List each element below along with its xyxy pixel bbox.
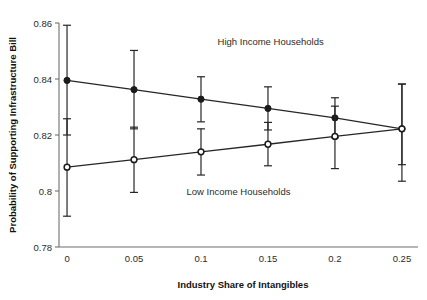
y-tick-label: 0.86: [34, 18, 53, 29]
y-tick-label: 0.78: [34, 242, 53, 253]
x-axis-ticks: 00.050.10.150.20.25: [64, 253, 411, 264]
series-line: [67, 80, 402, 128]
y-tick-label: 0.8: [39, 186, 52, 197]
data-point: [198, 96, 204, 102]
data-point: [265, 141, 271, 147]
data-point: [332, 134, 338, 140]
data-point: [198, 149, 204, 155]
chart-canvas: 0.780.80.820.840.86 00.050.10.150.20.25 …: [0, 0, 427, 300]
series-annotation-label: High Income Households: [218, 36, 324, 47]
y-tick-label: 0.84: [34, 74, 53, 85]
x-tick-label: 0: [64, 253, 69, 264]
data-point: [399, 126, 405, 132]
chart-annotations: High Income HouseholdsLow Income Househo…: [186, 36, 323, 197]
data-point: [64, 164, 70, 170]
data-point: [131, 157, 137, 163]
chart-axes: [59, 23, 418, 247]
x-axis-title: Industry Share of Intangibles: [178, 279, 309, 290]
y-axis-ticks: 0.780.80.820.840.86: [34, 18, 60, 253]
data-point: [131, 87, 137, 93]
series-annotation-label: Low Income Households: [186, 186, 290, 197]
x-tick-label: 0.2: [328, 253, 341, 264]
data-point: [64, 77, 70, 83]
x-tick-label: 0.05: [125, 253, 144, 264]
x-tick-label: 0.1: [194, 253, 207, 264]
series-line: [67, 129, 402, 167]
chart-figure: 0.780.80.820.840.86 00.050.10.150.20.25 …: [0, 0, 427, 300]
data-point: [265, 105, 271, 111]
y-axis-title: Probability of Supporting Infrastructure…: [7, 37, 18, 233]
x-tick-label: 0.15: [259, 253, 278, 264]
y-tick-label: 0.82: [34, 130, 53, 141]
x-tick-label: 0.25: [393, 253, 412, 264]
